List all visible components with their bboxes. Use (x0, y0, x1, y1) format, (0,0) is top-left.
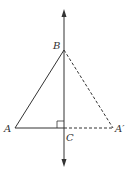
label-C: C (66, 132, 74, 143)
label-A: A (3, 123, 11, 134)
label-B: B (52, 40, 60, 51)
arrow-down-icon (62, 159, 67, 167)
label-A-prime: A′ (114, 123, 125, 134)
arrow-up-icon (62, 9, 67, 17)
segment-AB (15, 50, 64, 128)
right-angle-marker (57, 121, 64, 128)
reflection-diagram: B A A′ C (0, 0, 130, 169)
segment-BA-prime (64, 50, 113, 128)
